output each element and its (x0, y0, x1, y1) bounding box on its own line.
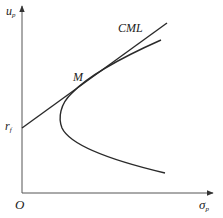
x-axis-label: σp (199, 198, 209, 213)
y-axis-label: up (6, 5, 16, 19)
origin-label: O (15, 198, 24, 211)
rf-label: rf (5, 120, 12, 134)
tangent-point-label: M (73, 71, 83, 83)
cml-diagram (0, 0, 223, 218)
efficient-frontier-curve (60, 40, 165, 173)
cml-label: CML (118, 22, 143, 34)
